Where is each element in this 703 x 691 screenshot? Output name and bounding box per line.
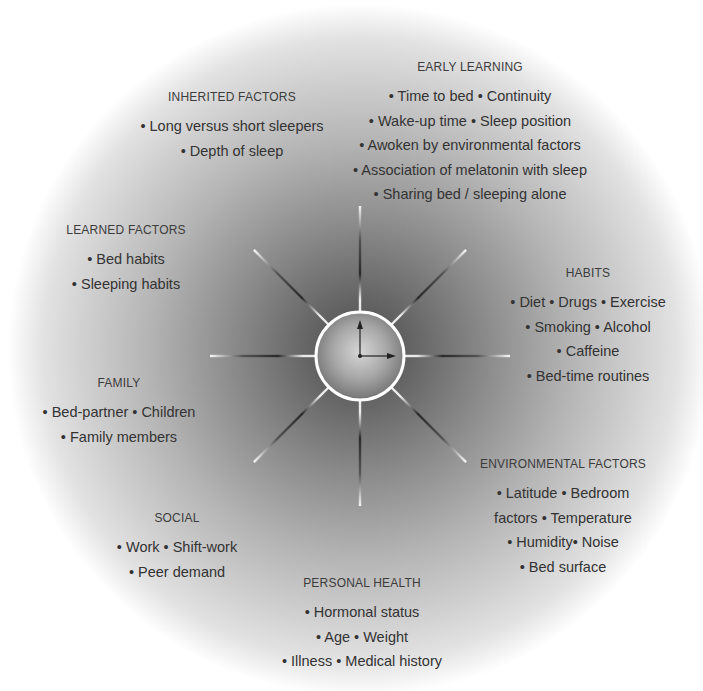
factor-item: • Family members (43, 425, 196, 450)
factor-early-learning: EARLY LEARNING • Time to bed • Continuit… (353, 60, 587, 207)
factor-social: SOCIAL • Work • Shift-work • Peer demand (117, 511, 237, 584)
factor-item: • Smoking • Alcohol (510, 315, 665, 340)
factor-item: factors • Temperature (480, 506, 646, 531)
factor-title: LEARNED FACTORS (66, 223, 185, 247)
factor-habits: HABITS • Diet • Drugs • Exercise • Smoki… (510, 266, 665, 388)
factor-item: • Bed-time routines (510, 364, 665, 389)
factor-item: • Bed habits (66, 247, 185, 272)
factor-item: • Caffeine (510, 339, 665, 364)
factor-item: • Awoken by environmental factors (353, 133, 587, 158)
rays-group (210, 206, 510, 506)
factor-item: • Peer demand (117, 560, 237, 585)
factor-item: • Work • Shift-work (117, 535, 237, 560)
factor-item: • Sharing bed / sleeping alone (353, 182, 587, 207)
factor-title: ENVIRONMENTAL FACTORS (480, 457, 646, 481)
factor-title: EARLY LEARNING (353, 60, 587, 84)
factor-item: • Depth of sleep (140, 139, 323, 164)
factor-inherited-factors: INHERITED FACTORS • Long versus short sl… (140, 90, 323, 163)
factor-item: • Humidity• Noise (480, 530, 646, 555)
clock-center-dot (358, 354, 362, 358)
factor-title: HABITS (510, 266, 665, 290)
factor-personal-health: PERSONAL HEALTH • Hormonal status • Age … (282, 576, 442, 674)
factor-item: • Long versus short sleepers (140, 114, 323, 139)
factor-item: • Latitude • Bedroom (480, 481, 646, 506)
factor-item: • Illness • Medical history (282, 649, 442, 674)
factor-family: FAMILY • Bed-partner • Children • Family… (43, 376, 196, 449)
factor-item: • Hormonal status (282, 600, 442, 625)
factor-item: • Time to bed • Continuity (353, 84, 587, 109)
factor-title: PERSONAL HEALTH (282, 576, 442, 600)
factor-title: FAMILY (43, 376, 196, 400)
factor-item: • Wake-up time • Sleep position (353, 109, 587, 134)
factor-item: • Sleeping habits (66, 272, 185, 297)
factor-title: INHERITED FACTORS (140, 90, 323, 114)
factor-item: • Association of melatonin with sleep (353, 158, 587, 183)
factor-title: SOCIAL (117, 511, 237, 535)
factor-item: • Age • Weight (282, 625, 442, 650)
factor-item: • Diet • Drugs • Exercise (510, 290, 665, 315)
factor-item: • Bed-partner • Children (43, 400, 196, 425)
factor-learned-factors: LEARNED FACTORS • Bed habits • Sleeping … (66, 223, 185, 296)
factor-item: • Bed surface (480, 555, 646, 580)
factor-environmental-factors: ENVIRONMENTAL FACTORS • Latitude • Bedro… (480, 457, 646, 579)
